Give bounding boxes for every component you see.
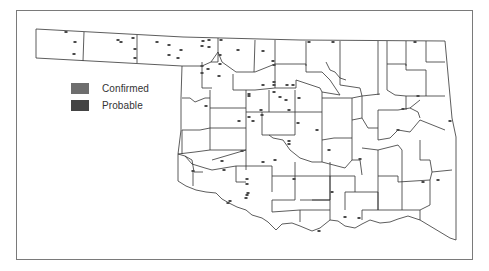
case-marker	[134, 48, 137, 50]
case-marker	[120, 41, 123, 43]
legend: Confirmed Probable	[71, 80, 149, 114]
case-marker	[73, 53, 76, 55]
case-marker	[332, 41, 335, 43]
case-marker	[132, 37, 135, 39]
case-marker	[288, 109, 291, 111]
case-marker	[262, 84, 265, 86]
case-marker	[316, 129, 319, 131]
case-marker	[402, 108, 405, 110]
case-marker	[168, 44, 171, 46]
case-marker	[208, 39, 211, 41]
case-marker	[221, 160, 224, 162]
case-marker	[220, 39, 223, 41]
case-marker	[156, 41, 159, 43]
case-marker	[328, 149, 331, 151]
case-marker	[248, 93, 251, 95]
case-marker	[286, 84, 289, 86]
case-marker	[201, 72, 204, 74]
case-marker	[65, 31, 68, 33]
case-marker	[422, 181, 425, 183]
case-marker	[202, 40, 205, 42]
case-marker	[74, 41, 77, 43]
case-marker	[308, 41, 311, 43]
case-marker	[397, 129, 400, 131]
case-marker	[219, 63, 222, 65]
case-marker	[414, 41, 417, 43]
case-marker	[117, 39, 120, 41]
probable-swatch	[71, 100, 89, 111]
case-marker	[261, 114, 264, 116]
case-marker	[177, 57, 180, 59]
case-marker	[237, 49, 240, 51]
confirmed-swatch	[71, 83, 89, 94]
oklahoma-county-map	[0, 0, 489, 271]
case-marker	[248, 116, 251, 118]
case-marker	[262, 50, 265, 52]
case-marker	[273, 64, 276, 66]
case-marker	[288, 140, 291, 142]
case-marker	[227, 202, 230, 204]
case-marker	[241, 150, 244, 152]
case-marker	[274, 159, 277, 161]
case-marker	[168, 54, 171, 56]
case-marker	[285, 99, 288, 101]
case-marker	[229, 200, 232, 202]
case-marker	[248, 95, 251, 97]
case-marker	[273, 91, 276, 93]
case-marker	[260, 109, 263, 111]
case-marker	[247, 192, 250, 194]
case-marker	[208, 46, 211, 48]
case-marker	[134, 57, 137, 59]
case-marker	[223, 169, 226, 171]
case-marker	[201, 45, 204, 47]
case-marker	[201, 65, 204, 67]
legend-item-probable: Probable	[71, 97, 149, 114]
case-marker	[207, 68, 210, 70]
case-marker	[359, 158, 362, 160]
case-marker	[262, 161, 265, 163]
case-marker	[246, 183, 249, 185]
case-marker	[318, 230, 321, 232]
case-marker	[180, 49, 183, 51]
case-marker	[238, 120, 241, 122]
legend-label-confirmed: Confirmed	[102, 83, 149, 94]
case-marker	[219, 54, 222, 56]
case-marker	[449, 120, 452, 122]
case-marker	[279, 96, 282, 98]
case-marker	[246, 178, 249, 180]
case-marker	[417, 95, 420, 97]
case-marker	[293, 178, 296, 180]
case-marker	[292, 84, 295, 86]
case-marker	[272, 60, 275, 62]
case-marker	[437, 179, 440, 181]
case-marker	[297, 122, 300, 124]
case-marker	[246, 194, 249, 196]
case-marker	[288, 143, 291, 145]
case-marker	[344, 216, 347, 218]
legend-item-confirmed: Confirmed	[71, 80, 149, 97]
case-marker	[298, 97, 301, 99]
case-marker	[358, 217, 361, 219]
case-marker	[252, 120, 255, 122]
case-markers	[65, 31, 452, 232]
case-marker	[245, 197, 248, 199]
case-marker	[273, 84, 276, 86]
case-marker	[273, 81, 276, 83]
case-marker	[205, 105, 208, 107]
case-marker	[218, 75, 221, 77]
case-marker	[192, 170, 195, 172]
case-marker	[331, 191, 334, 193]
legend-label-probable: Probable	[102, 100, 143, 111]
